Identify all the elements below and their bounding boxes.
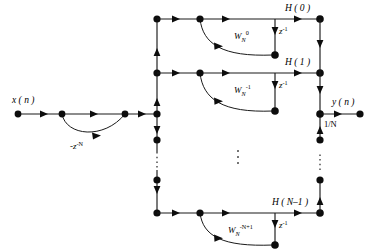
label-z1-sup: -1 <box>283 79 288 86</box>
resonator-row-1: H ( 1 ) WN-1 z-1 <box>157 57 324 115</box>
right-summing-bus <box>316 19 324 213</box>
label-zn-sup: -1 <box>283 219 288 226</box>
comb-feedback-curve <box>62 114 125 132</box>
arrowhead-input-1 <box>40 111 48 118</box>
label-h0: H ( 0 ) <box>284 3 310 14</box>
ellipsis-dot-3 <box>237 162 239 164</box>
label-comb-coefficient: -z-N <box>70 140 84 151</box>
node-right-mid-lower <box>316 176 323 183</box>
resonator-row-0: H ( 0 ) WN0 z-1 <box>157 3 324 59</box>
arrowhead-bus-up-2 <box>154 98 161 106</box>
label-w1-sup: -1 <box>246 83 251 90</box>
label-output-signal: y ( n ) <box>331 97 354 108</box>
arrowhead-rowN-3 <box>294 210 302 217</box>
label-z1: z-1 <box>278 79 288 90</box>
arrowhead-right-up-1 <box>317 126 324 134</box>
node-bus-input <box>153 110 160 117</box>
label-w0-sup: 0 <box>246 29 249 36</box>
arrowhead-rowN-1 <box>172 210 180 217</box>
arrowhead-bus-down-1 <box>154 126 161 134</box>
arrowhead-rowN-2 <box>222 210 230 217</box>
arrowhead-row0-2 <box>222 16 230 23</box>
label-h1: H ( 1 ) <box>284 57 310 68</box>
ellipsis-dot-2 <box>237 156 239 158</box>
node-row0-delay-state <box>271 51 279 59</box>
arrowhead-right-down-1 <box>317 40 324 48</box>
arrowhead-rowN-delay <box>272 220 279 228</box>
label-w0-sub: N <box>241 36 247 43</box>
arrowhead-right-up-2 <box>317 197 324 205</box>
arrowhead-bus-down-2 <box>154 186 161 194</box>
node-right-mid-upper <box>316 136 323 143</box>
arrowhead-output <box>334 111 342 118</box>
label-w1: WN-1 <box>234 83 251 96</box>
label-comb-sup: -N <box>77 140 84 147</box>
label-w0: WN0 <box>234 29 249 42</box>
label-wn-sup: -N+1 <box>240 223 253 230</box>
arrowhead-row1-3 <box>294 70 302 77</box>
node-rowN-tap <box>196 209 203 216</box>
label-wn: WN-N+1 <box>228 223 253 236</box>
label-w1-sub: N <box>241 90 247 97</box>
arrowhead-row1-delay <box>272 81 279 89</box>
arrowhead-rowN-curve <box>214 235 223 242</box>
label-hn: H ( N–1 ) <box>271 197 308 208</box>
label-wn-sub: N <box>235 230 241 237</box>
label-zn: z-1 <box>278 219 288 230</box>
arrowhead-input-2 <box>90 111 98 118</box>
label-z0-sup: -1 <box>283 25 288 32</box>
arrowhead-row1-2 <box>222 70 230 77</box>
node-bus-mid-lower <box>153 176 160 183</box>
flow-graph-canvas: H ( 0 ) WN0 z-1 H ( 1 ) WN-1 z-1 <box>0 0 372 251</box>
node-comb-tap <box>59 111 66 118</box>
arrowhead-row1-1 <box>172 70 180 77</box>
arrowhead-row0-delay <box>272 27 279 35</box>
node-bus-mid-upper <box>153 136 160 143</box>
vertical-ellipsis <box>237 150 239 164</box>
label-input-signal: x ( n ) <box>11 95 34 106</box>
ellipsis-dot-1 <box>237 150 239 152</box>
node-row0-tap <box>196 15 203 22</box>
label-gain-1-over-n: 1/N <box>324 119 337 129</box>
arrowhead-row0-3 <box>294 16 302 23</box>
arrowhead-right-down-2 <box>317 86 324 94</box>
arrowhead-comb-curve <box>92 132 101 139</box>
left-distribution-bus <box>153 15 160 216</box>
signal-flow-diagram: H ( 0 ) WN0 z-1 H ( 1 ) WN-1 z-1 <box>0 0 372 251</box>
node-output-sink <box>356 110 363 117</box>
arrowhead-input-3 <box>138 111 146 118</box>
node-rowN-delay-state <box>271 241 279 249</box>
label-z0: z-1 <box>278 25 288 36</box>
node-row1-tap <box>196 69 203 76</box>
arrowhead-row0-1 <box>172 16 180 23</box>
input-branch <box>15 111 157 140</box>
node-row1-delay-state <box>271 107 279 115</box>
arrowhead-bus-up-1 <box>154 48 161 56</box>
node-input-source <box>15 111 22 118</box>
output-branch: y ( n ) 1/N <box>320 97 364 129</box>
node-comb-sum <box>122 111 129 118</box>
resonator-row-n-1: H ( N–1 ) WN-N+1 z-1 <box>157 197 324 249</box>
